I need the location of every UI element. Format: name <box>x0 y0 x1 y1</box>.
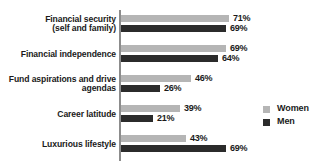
bar-value-men: 69% <box>230 23 247 33</box>
bar-women[interactable] <box>121 45 226 52</box>
bar-value-men: 26% <box>164 83 181 93</box>
category-axis-label: Fund aspirations and drive agendas <box>0 75 116 94</box>
bar-value-women: 71% <box>233 13 250 23</box>
category-axis-label: Luxurious lifestyle <box>0 140 116 149</box>
bar-women[interactable] <box>121 135 186 142</box>
bar-value-men: 69% <box>230 143 247 153</box>
bar-value-women: 69% <box>230 43 247 53</box>
category-label-line1: Luxurious lifestyle <box>0 140 116 149</box>
category-label-line1: Financial independence <box>0 50 116 59</box>
bar-men[interactable] <box>121 145 226 152</box>
category-axis-label: Career latitude <box>0 110 116 119</box>
bar-women[interactable] <box>121 75 191 82</box>
plot-area: Financial security (self and family) 71%… <box>0 0 331 167</box>
bar-men[interactable] <box>121 115 153 122</box>
category-label-line2: agendas <box>0 84 116 93</box>
category-label-line2: (self and family) <box>0 24 116 33</box>
legend-label: Women <box>277 103 309 113</box>
category-axis-label: Financial independence <box>0 50 116 59</box>
category-axis-label: Financial security (self and family) <box>0 15 116 34</box>
bar-women[interactable] <box>121 15 229 22</box>
bar-men[interactable] <box>121 85 160 92</box>
bar-women[interactable] <box>121 105 180 112</box>
horizontal-bar-chart: Financial security (self and family) 71%… <box>0 0 331 167</box>
bar-value-women: 39% <box>184 103 201 113</box>
category-label-line1: Career latitude <box>0 110 116 119</box>
bar-value-women: 43% <box>190 133 207 143</box>
bar-value-women: 46% <box>195 73 212 83</box>
bar-men[interactable] <box>121 55 218 62</box>
legend-label: Men <box>277 116 295 126</box>
legend-swatch-icon <box>263 106 270 113</box>
bar-value-men: 21% <box>157 113 174 123</box>
bar-men[interactable] <box>121 25 226 32</box>
legend-swatch-icon <box>263 119 270 126</box>
bar-value-men: 64% <box>222 53 239 63</box>
